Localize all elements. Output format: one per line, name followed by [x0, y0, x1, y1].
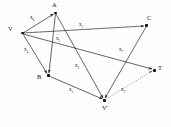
edge-label-v-t-sub: 1 [59, 39, 61, 43]
edge-label-c-vprime-sub: 7 [122, 50, 124, 54]
vertex-dot-vprime [103, 99, 105, 101]
edge-label-v-a: x6 [30, 15, 34, 22]
edge-v-to-a [23, 14, 54, 33]
edge-label-a-vprime-sub: 2 [78, 66, 80, 70]
edge-label-v-c: x5 [79, 22, 83, 29]
vector-diagram-figure: V A B C T V' x6 x5 x1 x4 x2 x3 x7 x7' [0, 0, 171, 127]
vertex-dot-c [145, 24, 147, 26]
edge-label-b-vprime: x3 [69, 87, 73, 94]
vertex-dot-v [21, 32, 23, 34]
vertex-label-b: B [37, 74, 41, 81]
vertex-label-t: T [158, 65, 162, 72]
vertex-label-v: V [8, 26, 13, 33]
edge-label-vprime-t: x7' [121, 87, 126, 94]
edge-label-v-a-sub: 6 [33, 18, 35, 22]
edge-v-to-t [23, 34, 152, 69]
edge-label-c-vprime: x7 [119, 47, 123, 54]
diagram-canvas [0, 0, 171, 127]
vertex-label-vprime: V' [102, 105, 108, 112]
edge-label-v-c-sub: 5 [82, 25, 84, 29]
edge-v-to-c [23, 26, 144, 33]
edge-label-b-vprime-sub: 3 [72, 90, 74, 94]
edge-label-v-b-sub: 4 [27, 50, 29, 54]
edge-label-a-vprime: x2 [75, 63, 79, 70]
edge-a-to-b [49, 14, 56, 74]
edge-label-v-b: x4 [24, 47, 28, 54]
vertex-label-c: C [147, 15, 151, 22]
vertex-dot-t [153, 69, 155, 71]
edge-label-vprime-t-sub: 7' [124, 90, 126, 94]
vertex-dot-b [47, 74, 49, 76]
vertex-dot-a [54, 12, 56, 14]
vertex-label-a: A [52, 2, 57, 9]
edge-b-to-vprime [49, 76, 103, 99]
edge-label-v-t: x1 [56, 36, 60, 43]
